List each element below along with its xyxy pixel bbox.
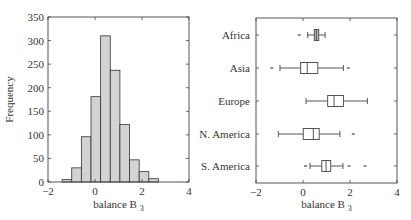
y-tick-label: 350 (28, 11, 45, 23)
chart-canvas: −2024050100150200250300350balance B 3Fre… (0, 0, 411, 220)
boxplot-s-america: S. America (201, 160, 397, 172)
y-tick-label: 50 (33, 152, 45, 164)
x-tick-label: −2 (250, 186, 262, 198)
histogram-panel: −2024050100150200250300350balance B 3Fre… (3, 11, 192, 213)
histogram-bar (120, 124, 130, 182)
y-tick-label: 0 (39, 176, 45, 188)
category-label: N. America (199, 128, 250, 140)
histogram-bar (139, 172, 149, 182)
x-tick-label: 2 (139, 185, 145, 197)
boxplot-asia: Asia (230, 62, 397, 74)
iqr-box (301, 63, 318, 74)
x-axis-label: balance B 3 (301, 198, 351, 213)
boxplot-africa: Africa (222, 29, 397, 41)
histogram-bar (101, 36, 111, 182)
category-label: Europe (218, 95, 250, 107)
histogram-bar (91, 97, 101, 182)
y-axis-label: Frequency (3, 76, 15, 123)
plot-frame (256, 18, 397, 183)
x-axis-label: balance B 3 (93, 198, 143, 213)
category-label: Africa (222, 29, 250, 41)
x-tick-label: 0 (300, 186, 306, 198)
histogram-bar (110, 70, 120, 182)
histogram-bar (72, 168, 82, 182)
x-tick-label: 4 (394, 186, 400, 198)
x-tick-label: 4 (186, 185, 192, 197)
boxplot-europe: Europe (218, 95, 397, 107)
y-tick-label: 100 (28, 129, 45, 141)
x-tick-label: 0 (92, 185, 98, 197)
histogram-bar (149, 179, 159, 182)
boxplot-n-america: N. America (199, 128, 397, 140)
y-tick-label: 300 (28, 35, 45, 47)
category-label: S. America (201, 160, 250, 172)
y-tick-label: 200 (28, 82, 45, 94)
iqr-box (303, 129, 319, 140)
y-tick-label: 150 (28, 105, 45, 117)
y-tick-label: 250 (28, 58, 45, 70)
boxplot-panel: −2024AfricaAsiaEuropeN. AmericaS. Americ… (199, 18, 400, 213)
iqr-box (328, 96, 344, 107)
histogram-bar (81, 137, 91, 182)
x-tick-label: 2 (347, 186, 353, 198)
histogram-bar (130, 160, 140, 182)
category-label: Asia (230, 62, 250, 74)
